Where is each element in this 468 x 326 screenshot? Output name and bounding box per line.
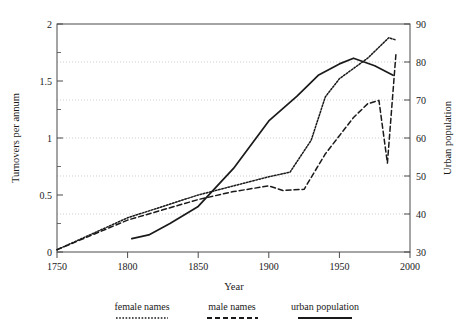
y-tick-label: 2	[47, 19, 52, 30]
x-axis-title: Year	[224, 281, 244, 292]
chart-legend: female names male names urban population	[114, 301, 359, 318]
y-tick-label: 0.5	[40, 190, 53, 201]
x-tick-label: 2000	[400, 261, 420, 272]
y2-axis-title: Urban population	[442, 100, 453, 175]
legend-item-label: female names	[114, 301, 169, 312]
right-axis-ticks	[404, 24, 410, 252]
left-axis-tick-labels: 2 1.5 1 0.5 0	[40, 19, 53, 258]
y-tick-label: 1	[47, 133, 52, 144]
x-tick-label: 1900	[259, 261, 279, 272]
series-plot-group	[57, 38, 396, 250]
y-axis-title: Turnovers per annum	[10, 93, 21, 183]
x-tick-label: 1950	[329, 261, 349, 272]
y-tick-label: 0	[47, 247, 52, 258]
x-tick-label: 1800	[118, 261, 138, 272]
right-axis-tick-labels: 30 40 50 60 70 80 90	[416, 19, 426, 258]
legend-item-male-names: male names	[207, 301, 258, 318]
x-tick-label: 1850	[188, 261, 208, 272]
x-axis-ticks	[57, 252, 410, 258]
series-line-urban-population	[132, 58, 393, 239]
legend-item-female-names: female names	[114, 301, 169, 318]
chart-figure: 2 1.5 1 0.5 0 30 40 50 60 70 80 90 1750 …	[0, 0, 468, 326]
series-line-female-names	[57, 38, 396, 250]
y2-tick-label: 50	[416, 171, 426, 182]
legend-item-label: male names	[208, 301, 256, 312]
y2-tick-label: 80	[416, 57, 426, 68]
series-line-male-names	[57, 55, 396, 250]
y2-tick-label: 60	[416, 133, 426, 144]
y2-tick-label: 90	[416, 19, 426, 30]
y2-tick-label: 70	[416, 95, 426, 106]
y2-tick-label: 30	[416, 247, 426, 258]
left-axis-ticks	[57, 24, 63, 252]
x-axis-tick-labels: 1750 1800 1850 1900 1950 2000	[47, 261, 420, 272]
y-tick-label: 1.5	[40, 76, 53, 87]
legend-item-urban-population: urban population	[291, 301, 359, 318]
legend-item-label: urban population	[291, 301, 359, 312]
x-tick-label: 1750	[47, 261, 67, 272]
y2-tick-label: 40	[416, 209, 426, 220]
